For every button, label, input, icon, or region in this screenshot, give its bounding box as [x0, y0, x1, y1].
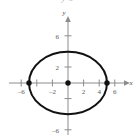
y-tick-label-6: 6 — [56, 33, 60, 41]
ellipse-graph-figure: y 5 — [0, 0, 136, 140]
x-tick-label--2: –2 — [48, 88, 57, 96]
point-center — [65, 80, 70, 85]
coordinate-plane: –6 –2 2 4 6 6 2 –6 x y — [0, 0, 136, 140]
x-axis-label: x — [128, 79, 133, 87]
y-axis-label: y — [61, 9, 66, 17]
x-tick-label--6: –6 — [17, 88, 26, 96]
y-tick-label--6: –6 — [51, 127, 60, 135]
axis-lines — [9, 16, 130, 135]
x-tick-label-2: 2 — [82, 88, 86, 96]
x-tick-label-6: 6 — [113, 88, 117, 96]
y-axis-arrowhead — [65, 16, 71, 22]
y-tick-label-2: 2 — [56, 64, 60, 72]
point-right-vertex — [104, 80, 109, 85]
x-tick-label-4: 4 — [97, 88, 101, 96]
point-left-vertex — [26, 80, 31, 85]
